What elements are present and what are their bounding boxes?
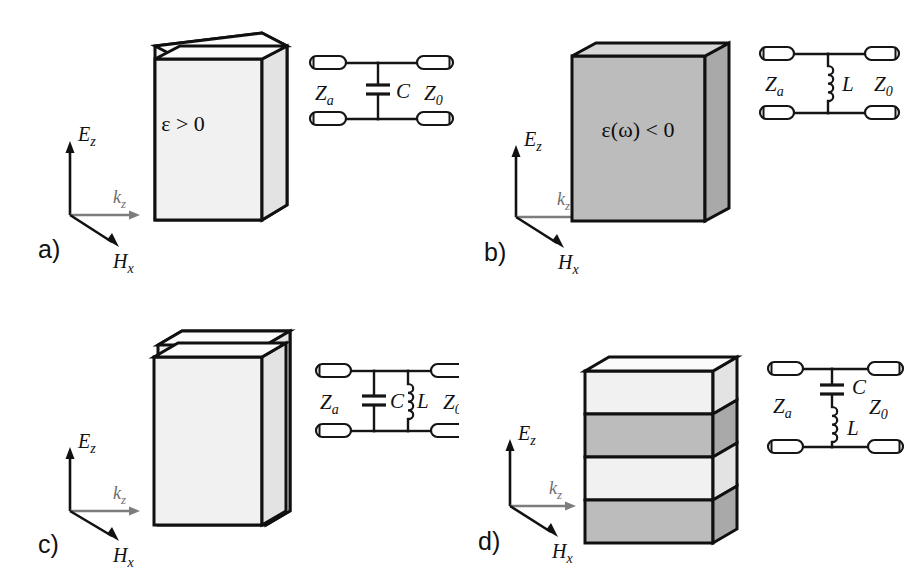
- port-bottom-left-a: [310, 112, 346, 125]
- axes-triad-c: [66, 447, 141, 541]
- panel-a: Ez kz Hx ε > 0: [0, 0, 459, 291]
- panel-b: Ez kz Hx ε(ω) < 0: [460, 0, 919, 291]
- axis-label-Hx-b: Hx: [557, 251, 579, 277]
- axis-label-Hx-c: Hx: [112, 544, 134, 570]
- axis-label-kz-b: kz: [557, 189, 570, 213]
- circuit-b-inductor-label: L: [841, 72, 854, 96]
- panel-c-graphic: Ez kz Hx: [0, 291, 459, 582]
- circuit-b-right-port-label: Z0: [874, 72, 893, 99]
- axis-label-kz-c: kz: [113, 483, 126, 507]
- slab-layer-1: [585, 371, 713, 414]
- circuit-c-left-port-label: Za: [320, 390, 339, 417]
- inductor-coil-b: [828, 66, 833, 101]
- circuit-c-right-port-label: Z0: [443, 390, 459, 417]
- circuit-a-left-port-label: Za: [315, 81, 334, 108]
- inductor-coil-d: [832, 407, 837, 442]
- axis-label-Hx: Hx: [112, 250, 134, 276]
- panel-b-graphic: Ez kz Hx ε(ω) < 0: [460, 0, 919, 291]
- axis-label-kz-d: kz: [549, 478, 562, 502]
- circuit-c-capacitor-label: C: [390, 389, 405, 413]
- axis-label-Ez-d: Ez: [517, 422, 536, 448]
- inductor-coil-c: [408, 384, 413, 419]
- circuit-a-capacitor-label: C: [396, 79, 411, 103]
- circuit-d-right-port-label: Z0: [869, 395, 888, 422]
- slab-c: [154, 331, 290, 525]
- port-top-right-d: [868, 362, 903, 375]
- circuit-a-right-port-label: Z0: [424, 81, 443, 108]
- port-top-right-b: [865, 47, 899, 60]
- slab-layer-2: [585, 414, 713, 457]
- port-bottom-right-c: [431, 424, 459, 437]
- slab-a-material-label: ε > 0: [161, 111, 205, 136]
- panel-d-graphic: Ez kz Hx: [460, 291, 919, 582]
- slab-layer-3: [585, 457, 713, 500]
- axis-label-kz: kz: [113, 187, 126, 211]
- port-bottom-left-b: [760, 106, 794, 119]
- port-bottom-right-a: [417, 112, 453, 125]
- circuit-d-inductor-label: L: [846, 416, 859, 440]
- circuit-b-left-port-label: Za: [765, 72, 784, 99]
- circuit-d-capacitor-label: C: [852, 375, 867, 399]
- slab-b-material-label: ε(ω) < 0: [602, 117, 675, 142]
- axes-triad-a: [66, 141, 141, 247]
- slab-d-multilayer: [585, 357, 737, 543]
- port-bottom-left-c: [316, 424, 351, 437]
- axes-triad-d: [506, 439, 577, 537]
- port-top-right-c: [431, 364, 459, 377]
- port-bottom-right-d: [868, 440, 903, 453]
- port-top-left-b: [760, 47, 794, 60]
- circuit-d-left-port-label: Za: [773, 394, 792, 421]
- port-bottom-right-b: [865, 106, 899, 119]
- port-top-left-c: [316, 364, 351, 377]
- panel-a-graphic: Ez kz Hx ε > 0: [0, 0, 459, 291]
- panel-d: Ez kz Hx: [460, 291, 919, 582]
- panel-c: Ez kz Hx: [0, 291, 459, 582]
- panel-letter-a: a): [38, 235, 60, 263]
- axis-label-Ez: Ez: [77, 123, 96, 149]
- port-top-right-a: [417, 56, 453, 69]
- port-bottom-left-d: [768, 440, 803, 453]
- axis-label-Ez-c: Ez: [77, 430, 96, 456]
- slab-layer-4: [585, 500, 713, 543]
- circuit-c-inductor-label: L: [416, 389, 429, 413]
- metamaterial-slab-circuit-figure: Ez kz Hx ε > 0: [0, 0, 919, 582]
- axis-label-Ez-b: Ez: [523, 128, 542, 154]
- panel-letter-c: c): [38, 530, 59, 558]
- port-top-left-a: [310, 56, 346, 69]
- panel-letter-b: b): [484, 238, 506, 266]
- axis-label-Hx-d: Hx: [551, 540, 573, 566]
- panel-letter-d: d): [478, 527, 500, 555]
- circuit-c: [316, 364, 459, 437]
- port-top-left-d: [768, 362, 803, 375]
